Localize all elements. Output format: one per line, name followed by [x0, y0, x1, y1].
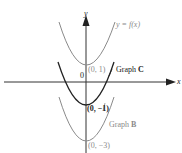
graph-b-label-text: Graph: [109, 120, 131, 129]
vertex-b-label: (0, −3): [88, 142, 110, 150]
vertex-c-label: (0, −1): [87, 105, 109, 113]
curve-f: [59, 22, 115, 65]
x-axis-arrow-icon: [166, 79, 176, 86]
graph-c-pointer: [109, 69, 112, 76]
curve-f-label: y = f(x): [116, 21, 140, 29]
graph-c-label: Graph C: [116, 66, 144, 74]
origin-label: 0: [80, 72, 84, 80]
graph-c-label-text: Graph: [116, 65, 138, 74]
graph-b-label: Graph B: [109, 121, 136, 129]
x-axis-label: x: [177, 78, 181, 86]
graph-canvas: [0, 0, 182, 153]
y-axis-label: y: [84, 10, 88, 18]
graph-b-label-letter: B: [131, 120, 136, 129]
vertex-f-label: (0, 1): [88, 66, 105, 74]
graph-c-label-letter: C: [138, 65, 144, 74]
